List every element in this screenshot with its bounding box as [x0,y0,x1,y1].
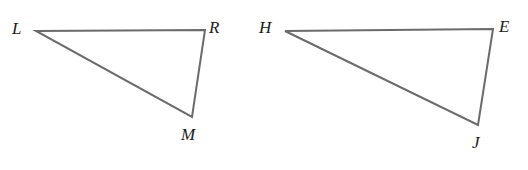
vertex-label-l: L [12,20,21,37]
vertex-label-h: H [259,19,271,36]
vertex-label-m: M [181,126,195,143]
vertex-label-r: R [209,19,219,36]
triangle-hej-outline [285,29,493,125]
geometry-figure: L R M H E J [0,0,528,170]
vertex-label-j: J [472,134,480,151]
vertex-label-e: E [499,18,509,35]
triangle-lrm-outline [36,30,205,117]
